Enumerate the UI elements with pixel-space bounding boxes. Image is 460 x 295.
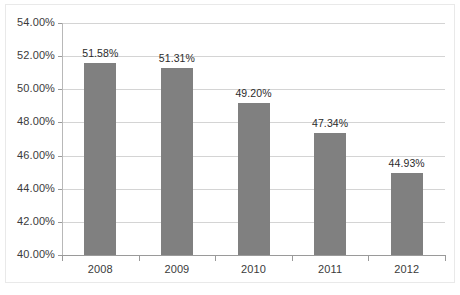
x-axis-tick-label: 2009 [147,263,207,275]
bar-value-label: 51.58% [70,47,130,59]
bar-value-label: 51.31% [147,52,207,64]
x-axis-tick-label: 2010 [224,263,284,275]
x-axis-labels-group: 51.58%200851.31%200949.20%201047.34%2011… [0,0,460,295]
x-axis-tick-label: 2008 [70,263,130,275]
x-axis-tick-label: 2011 [300,263,360,275]
x-axis-tick-label: 2012 [377,263,437,275]
bar-chart: 40.00%42.00%44.00%46.00%48.00%50.00%52.0… [0,0,460,295]
bar-value-label: 47.34% [300,117,360,129]
bar-value-label: 49.20% [224,87,284,99]
bar-value-label: 44.93% [377,157,437,169]
